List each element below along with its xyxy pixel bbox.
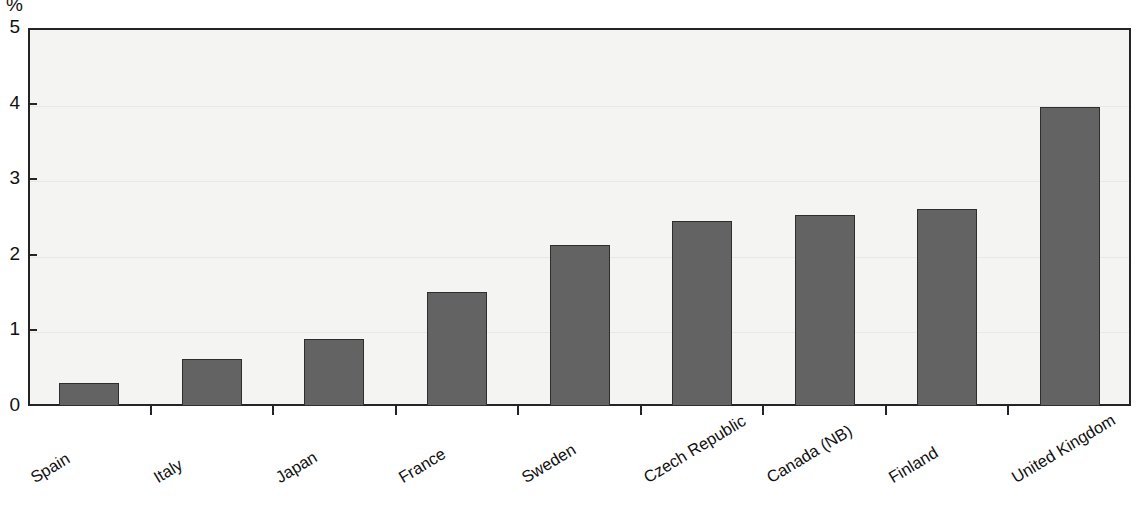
bar [795, 215, 855, 406]
x-axis-category-label: Italy [150, 455, 186, 487]
bar [59, 383, 119, 406]
x-axis-category-label: Canada (NB) [763, 421, 855, 487]
y-axis-label: 3 [0, 167, 20, 189]
y-axis-tick [28, 178, 37, 180]
y-axis-tick [28, 103, 37, 105]
x-axis-category-label: France [395, 444, 449, 487]
gridline [30, 181, 1129, 182]
y-axis-label: 4 [0, 92, 20, 114]
bar [550, 245, 610, 406]
x-axis-tick [762, 406, 764, 415]
x-axis-category-label: Sweden [518, 440, 579, 487]
x-axis-category-label: Finland [885, 443, 941, 487]
bar-chart: % 012345SpainItalyJapanFranceSwedenCzech… [0, 0, 1142, 523]
gridline [30, 106, 1129, 107]
x-axis-category-label: Spain [27, 449, 73, 487]
x-axis-tick [395, 406, 397, 415]
x-axis-category-label: Czech Republic [640, 411, 749, 487]
y-axis-label: 1 [0, 318, 20, 340]
x-axis-tick [640, 406, 642, 415]
x-axis-tick [885, 406, 887, 415]
bar [427, 292, 487, 406]
y-axis-label: 2 [0, 243, 20, 265]
x-axis-category-label: United Kingdom [1008, 410, 1118, 487]
x-axis-tick [150, 406, 152, 415]
y-axis-tick [28, 254, 37, 256]
y-axis-unit-label: % [6, 0, 23, 16]
x-axis-tick [1007, 406, 1009, 415]
bar [1040, 107, 1100, 406]
bar [182, 359, 242, 406]
y-axis-label: 0 [0, 394, 20, 416]
y-axis-tick [28, 329, 37, 331]
x-axis-tick [272, 406, 274, 415]
bar [917, 209, 977, 406]
bar [304, 339, 364, 406]
bar [672, 221, 732, 406]
x-axis-tick [517, 406, 519, 415]
y-axis-label: 5 [0, 16, 20, 38]
x-axis-category-label: Japan [273, 448, 321, 487]
